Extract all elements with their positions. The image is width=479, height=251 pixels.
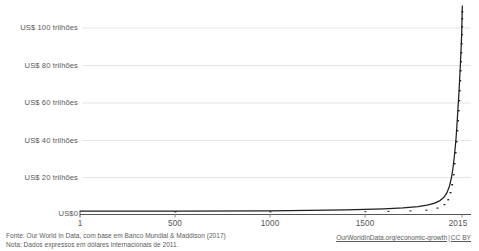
footer-notes: Fonte: Our World In Data, com base em Ba…	[6, 231, 226, 249]
gdp-line-chart: US$ 100 trilhões US$ 80 trilhões US$ 60 …	[0, 0, 479, 251]
series-pib-mundial	[80, 6, 463, 213]
x-axis	[80, 212, 471, 218]
source-attribution: OurWorldInData.org/economic-growth|CC BY	[336, 234, 471, 241]
y-tick-label-40t: US$ 40 trilhões	[25, 137, 78, 145]
x-tick-label-500: 500	[168, 219, 182, 228]
x-tick-label-2015: 2015	[449, 219, 468, 228]
footer-note-line: Nota: Dados expressos em dólares interna…	[6, 240, 226, 249]
y-tick-label-100t: US$ 100 trilhões	[20, 24, 78, 32]
gridlines	[82, 28, 471, 178]
x-tick-label-1500: 1500	[356, 219, 375, 228]
x-tick-label-1: 1	[78, 219, 83, 228]
y-tick-label-60t: US$ 60 trilhões	[25, 99, 78, 107]
owid-source-link[interactable]: OurWorldInData.org/economic-growth	[336, 234, 447, 241]
x-tick-label-1000: 1000	[261, 219, 280, 228]
y-tick-label-80t: US$ 80 trilhões	[25, 62, 78, 70]
y-tick-label-zero: US$0	[59, 210, 78, 218]
footer-source-line: Fonte: Our World In Data, com base em Ba…	[6, 231, 226, 240]
license-link[interactable]: CC BY	[451, 234, 471, 241]
y-tick-label-20t: US$ 20 trilhões	[25, 174, 78, 182]
